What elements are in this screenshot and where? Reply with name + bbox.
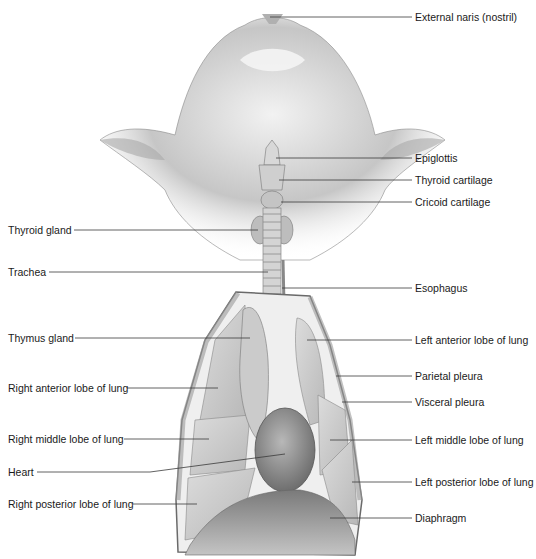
label-heart: Heart (8, 466, 34, 478)
label-visceral-pleura: Visceral pleura (415, 396, 484, 408)
label-thyroid-gland: Thyroid gland (8, 224, 72, 236)
label-left-anterior-lobe: Left anterior lobe of lung (415, 334, 528, 346)
label-thyroid-cartilage: Thyroid cartilage (415, 174, 493, 186)
label-thymus-gland: Thymus gland (8, 332, 74, 344)
label-trachea: Trachea (8, 266, 46, 278)
label-esophagus: Esophagus (415, 282, 468, 294)
label-left-posterior-lobe: Left posterior lobe of lung (415, 476, 534, 488)
heart-shape (255, 408, 315, 492)
label-right-middle-lobe: Right middle lobe of lung (8, 433, 124, 445)
label-epiglottis: Epiglottis (415, 152, 458, 164)
label-diaphragm: Diaphragm (415, 512, 466, 524)
label-parietal-pleura: Parietal pleura (415, 370, 483, 382)
label-right-anterior-lobe: Right anterior lobe of lung (8, 382, 128, 394)
label-external-naris: External naris (nostril) (415, 11, 517, 23)
anatomy-diagram: External naris (nostril) Epiglottis Thyr… (0, 0, 536, 559)
thorax (176, 292, 362, 555)
label-cricoid-cartilage: Cricoid cartilage (415, 196, 490, 208)
label-left-middle-lobe: Left middle lobe of lung (415, 434, 524, 446)
label-right-posterior-lobe: Right posterior lobe of lung (8, 498, 134, 510)
